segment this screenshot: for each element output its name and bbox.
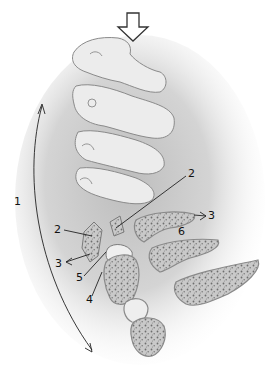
label-5: 5 [76, 272, 83, 283]
label-3-left: 3 [55, 258, 62, 269]
diagram-artwork [0, 0, 276, 366]
label-2-left: 2 [54, 224, 61, 235]
label-6: 6 [178, 226, 185, 237]
label-2-upper: 2 [188, 168, 195, 179]
cervical-spine-diagram: 1 2 2 3 3 4 5 6 [0, 0, 276, 366]
label-4: 4 [86, 294, 93, 305]
label-3-right: 3 [208, 210, 215, 221]
label-1: 1 [14, 196, 21, 207]
